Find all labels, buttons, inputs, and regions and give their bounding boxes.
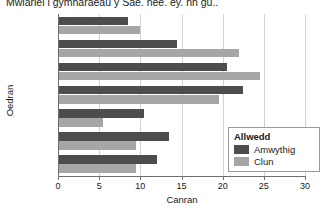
legend-item-clun: Clun (234, 156, 314, 167)
bar-amwythig-20–29 (58, 109, 144, 118)
x-tick (58, 176, 59, 180)
x-tick (140, 176, 141, 180)
bar-amwythig-30–44 (58, 86, 243, 95)
x-tick (223, 176, 224, 180)
chart-title: Mwiariei i gymharaeau y Sae. nee. ey. nn… (6, 0, 332, 8)
x-tick-label: 15 (176, 181, 186, 191)
bar-amwythig-75+ (58, 17, 128, 26)
legend-label-amwythig: Amwythig (254, 144, 295, 155)
bar-clun-30–44 (58, 95, 219, 104)
x-tick (305, 176, 306, 180)
bar-clun-10–19 (58, 141, 136, 150)
x-tick-label: 30 (300, 181, 310, 191)
legend-item-amwythig: Amwythig (234, 144, 314, 155)
bar-clun-20–29 (58, 118, 103, 127)
bar-amwythig-0–9 (58, 155, 157, 164)
bar-clun-75+ (58, 26, 140, 35)
gridline (223, 14, 224, 176)
bar-amwythig-60–74 (58, 40, 177, 49)
x-tick (264, 176, 265, 180)
y-axis-title: Oedran (4, 85, 15, 117)
y-axis-line (58, 14, 59, 177)
x-tick-label: 20 (218, 181, 228, 191)
bar-amwythig-45–59 (58, 63, 227, 72)
legend-label-clun: Clun (254, 156, 274, 167)
x-tick (182, 176, 183, 180)
x-tick-label: 10 (135, 181, 145, 191)
legend-title: Allwedd (234, 131, 314, 142)
legend: Allwedd Amwythig Clun (228, 127, 320, 172)
bar-amwythig-10–19 (58, 132, 169, 141)
bar-chart: Mwiariei i gymharaeau y Sae. nee. ey. nn… (0, 0, 334, 212)
x-tick-label: 5 (97, 181, 102, 191)
bar-clun-0–9 (58, 164, 136, 173)
bar-clun-45–59 (58, 72, 260, 81)
legend-swatch-icon-clun (234, 157, 249, 166)
x-axis-title: Canran (58, 194, 306, 205)
legend-swatch-icon-amwythig (234, 145, 249, 154)
bar-clun-60–74 (58, 49, 239, 58)
x-tick-label: 0 (55, 181, 60, 191)
x-tick (99, 176, 100, 180)
x-tick-label: 25 (259, 181, 269, 191)
